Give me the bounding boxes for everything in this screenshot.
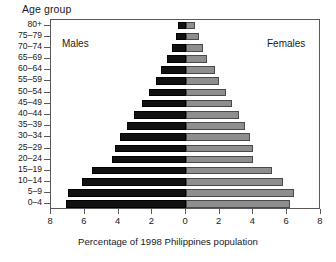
x-axis-tick-label: 4 — [242, 215, 262, 226]
x-axis-tick — [84, 209, 85, 214]
y-axis-tick-label: 55–59 — [18, 75, 42, 84]
y-axis-tick-label: 40–44 — [18, 109, 42, 118]
x-axis-tick — [286, 209, 287, 214]
y-axis-tick — [44, 103, 50, 104]
bar-female — [186, 33, 199, 41]
bar-male — [115, 145, 186, 153]
y-axis-tick-label: 75–79 — [18, 31, 42, 40]
y-axis-tick-label: 20–24 — [18, 154, 42, 163]
bar-male — [68, 189, 186, 197]
y-axis-tick — [44, 203, 50, 204]
bar-male — [120, 133, 186, 141]
y-axis-tick — [44, 136, 50, 137]
y-axis-tick — [44, 25, 50, 26]
bar-male — [66, 200, 186, 208]
bar-female — [186, 156, 253, 164]
y-axis-tick — [44, 47, 50, 48]
bar-female — [186, 111, 239, 119]
y-axis-tick — [44, 159, 50, 160]
x-axis-tick — [320, 209, 321, 214]
bar-male — [172, 44, 186, 52]
bar-male — [127, 122, 186, 130]
bar-male — [142, 100, 186, 108]
x-axis-tick-label: 4 — [108, 215, 128, 226]
x-axis-tick-label: 8 — [40, 215, 60, 226]
bar-row — [51, 54, 319, 65]
y-axis-tick — [44, 181, 50, 182]
bar-male — [134, 111, 186, 119]
bar-row — [51, 87, 319, 98]
bar-female — [186, 100, 232, 108]
bar-row — [51, 176, 319, 187]
bar-male — [167, 55, 186, 63]
x-axis-tick — [151, 209, 152, 214]
y-axis-tick — [44, 192, 50, 193]
bar-female — [186, 66, 215, 74]
x-axis-tick-label: 0 — [175, 215, 195, 226]
bar-female — [186, 122, 245, 130]
bar-male — [82, 178, 186, 186]
y-axis-tick-label: 30–34 — [18, 131, 42, 140]
x-axis-tick-label: 2 — [209, 215, 229, 226]
y-axis-tick — [44, 58, 50, 59]
series-label-females: Females — [267, 38, 305, 49]
x-axis-title: Percentage of 1998 Philippines populatio… — [0, 236, 336, 247]
bar-row — [51, 154, 319, 165]
x-axis-tick-label: 6 — [276, 215, 296, 226]
x-axis-tick-label: 8 — [310, 215, 330, 226]
bar-male — [161, 66, 186, 74]
x-axis-tick-label: 6 — [74, 215, 94, 226]
bar-female — [186, 200, 290, 208]
bar-male — [176, 33, 186, 41]
x-axis-tick-label: 2 — [141, 215, 161, 226]
y-axis-tick — [44, 92, 50, 93]
bar-row — [51, 143, 319, 154]
population-pyramid-chart: Age group 80+75–7970–7465–6960–6455–5950… — [0, 0, 336, 262]
y-axis-tick-label: 65–69 — [18, 53, 42, 62]
bar-row — [51, 20, 319, 31]
bar-female — [186, 189, 294, 197]
bar-female — [186, 77, 219, 85]
bar-female — [186, 44, 203, 52]
y-axis-tick-label: 70–74 — [18, 42, 42, 51]
x-axis-tick — [185, 209, 186, 214]
x-axis-tick — [252, 209, 253, 214]
bar-row — [51, 199, 319, 209]
y-axis-tick-label: 35–39 — [18, 120, 42, 129]
bar-row — [51, 76, 319, 87]
bar-male — [112, 156, 186, 164]
y-axis-tick-label: 45–49 — [18, 98, 42, 107]
y-axis-tick-label: 15–19 — [18, 165, 42, 174]
y-axis-tick — [44, 148, 50, 149]
y-axis-tick-label: 25–29 — [18, 143, 42, 152]
y-axis-tick-label: 60–64 — [18, 64, 42, 73]
y-axis-title: Age group — [22, 3, 71, 15]
bar-female — [186, 178, 283, 186]
bar-row — [51, 121, 319, 132]
bar-male — [178, 22, 186, 30]
bar-female — [186, 89, 226, 97]
bar-row — [51, 98, 319, 109]
x-axis-tick — [219, 209, 220, 214]
bar-row — [51, 165, 319, 176]
y-axis-tick — [44, 114, 50, 115]
y-axis-tick — [44, 125, 50, 126]
y-axis-tick — [44, 69, 50, 70]
bar-female — [186, 167, 272, 175]
x-axis-tick — [118, 209, 119, 214]
y-axis-tick-label: 0–4 — [28, 198, 42, 207]
y-axis-tick-label: 80+ — [27, 20, 42, 29]
bar-female — [186, 133, 250, 141]
y-axis-tick — [44, 80, 50, 81]
bar-male — [156, 77, 186, 85]
series-label-males: Males — [62, 38, 89, 49]
y-axis-tick-label: 10–14 — [18, 176, 42, 185]
y-axis-tick-label: 5–9 — [28, 187, 42, 196]
bar-row — [51, 132, 319, 143]
bar-row — [51, 188, 319, 199]
bar-row — [51, 109, 319, 120]
y-axis-tick-label: 50–54 — [18, 87, 42, 96]
y-axis-tick — [44, 36, 50, 37]
bar-female — [186, 145, 253, 153]
bar-female — [186, 55, 207, 63]
